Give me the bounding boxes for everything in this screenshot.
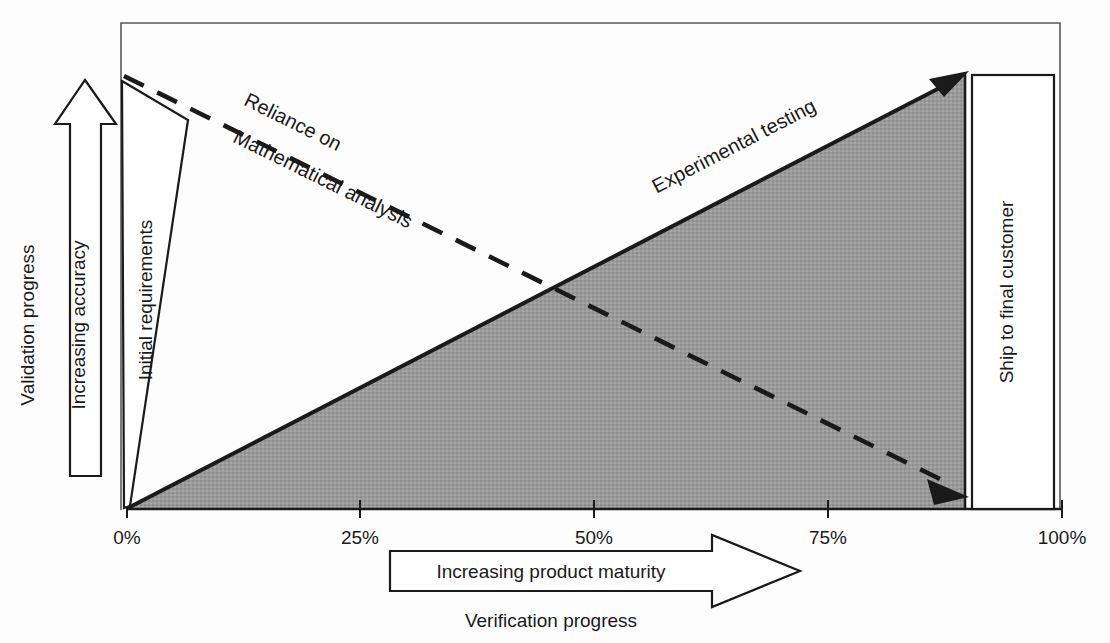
- increasing-accuracy-label: Increasing accuracy: [68, 240, 89, 409]
- x-tick-label-25: 25%: [341, 527, 379, 548]
- x-axis-label: Verification progress: [465, 610, 637, 631]
- ship-to-final-customer-block: Ship to final customer: [972, 75, 1054, 509]
- initial-requirements-block: Initial requirements: [122, 81, 188, 508]
- x-tick-label-0: 0%: [113, 527, 141, 548]
- initial-requirements-label: Initial requirements: [135, 220, 156, 381]
- increasing-accuracy-arrow: Increasing accuracy: [55, 80, 116, 476]
- figure-container: 0% 25% 50% 75% 100% Validation progress …: [0, 0, 1110, 643]
- diagram-svg: 0% 25% 50% 75% 100% Validation progress …: [0, 0, 1110, 643]
- increasing-product-maturity-label: Increasing product maturity: [436, 561, 666, 582]
- x-tick-label-100: 100%: [1038, 527, 1087, 548]
- x-tick-label-75: 75%: [809, 527, 847, 548]
- y-axis-label: Validation progress: [17, 244, 38, 405]
- x-tick-label-50: 50%: [575, 527, 613, 548]
- ship-to-final-customer-label: Ship to final customer: [996, 200, 1017, 383]
